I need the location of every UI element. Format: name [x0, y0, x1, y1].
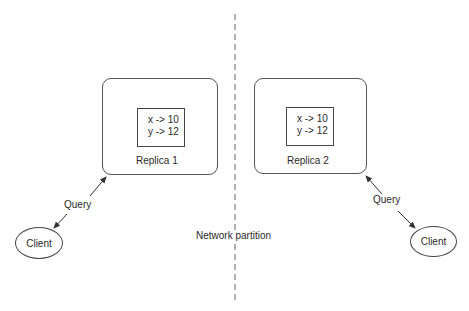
query-label-left: Query: [64, 199, 91, 211]
client-1-node: Client: [15, 227, 63, 259]
query-label-right: Query: [373, 194, 400, 206]
client-1-label: Client: [26, 238, 52, 249]
network-partition-label: Network partition: [196, 230, 271, 242]
replica-2-label: Replica 2: [287, 155, 329, 167]
replica-2-entry-y: y -> 12: [297, 125, 333, 137]
diagram-canvas: [0, 0, 469, 311]
client-2-label: Client: [421, 236, 447, 247]
query-arrow-to-client-1: [54, 214, 67, 228]
replica-1-entry-y: y -> 12: [148, 126, 184, 138]
replica-1-label: Replica 1: [136, 155, 178, 167]
replica-2-store: x -> 10 y -> 12: [286, 107, 334, 146]
replica-1-store: x -> 10 y -> 12: [137, 108, 185, 147]
client-2-node: Client: [410, 226, 457, 257]
replica-1-entry-x: x -> 10: [148, 114, 184, 126]
replica-2-entry-x: x -> 10: [297, 113, 333, 125]
query-arrow-to-client-2: [398, 211, 415, 228]
query-arrow-to-replica-1: [90, 177, 106, 196]
query-arrow-to-replica-2: [366, 176, 382, 194]
